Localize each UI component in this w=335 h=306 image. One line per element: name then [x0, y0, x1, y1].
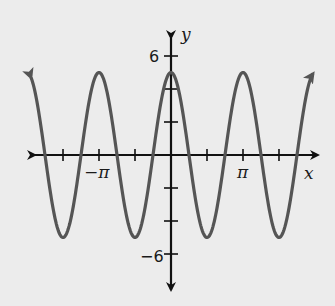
x-tick-label-pi: π — [236, 162, 249, 182]
y-axis-label: y — [180, 24, 191, 44]
x-tick-label-neg-pi: −π — [84, 162, 110, 182]
y-tick-label-6: 6 — [149, 47, 159, 66]
y-tick-label-neg6: −6 — [140, 247, 164, 266]
x-axis-label: x — [304, 163, 314, 183]
cosine-graph: y x 6 −6 −π π — [0, 0, 335, 306]
